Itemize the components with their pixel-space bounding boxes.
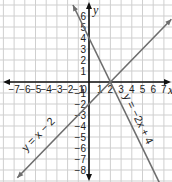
equation-label-2: y = −2x + 4: [121, 92, 156, 146]
y-tick-label: −6: [75, 143, 87, 154]
x-tick-label: 5: [140, 84, 146, 95]
x-tick-label: 7: [161, 84, 167, 95]
plot-line-1: [17, 19, 171, 177]
y-tick-label: −4: [75, 121, 87, 132]
x-tick-label: 6: [150, 84, 156, 95]
y-axis-label: y: [92, 3, 99, 17]
coordinate-plane-chart: xy −7−6−5−4−3−2−101234567654321−1−2−3−4−…: [0, 0, 172, 182]
y-axis-down-arrow-icon: [86, 174, 92, 181]
y-tick-label: 6: [80, 11, 86, 22]
x-tick-label: 3: [118, 84, 124, 95]
y-tick-label: 2: [80, 55, 86, 66]
y-tick-label: 3: [80, 44, 86, 55]
y-tick-label: 4: [80, 33, 86, 44]
y-tick-label: −7: [75, 154, 87, 165]
y-tick-label: −5: [75, 132, 87, 143]
x-axis-label: x: [167, 83, 172, 97]
y-tick-label: 1: [80, 66, 86, 77]
line-labels: y = x − 2y = −2x + 4: [19, 92, 156, 154]
y-tick-label: −1: [75, 88, 87, 99]
y-tick-label: −8: [75, 165, 87, 176]
